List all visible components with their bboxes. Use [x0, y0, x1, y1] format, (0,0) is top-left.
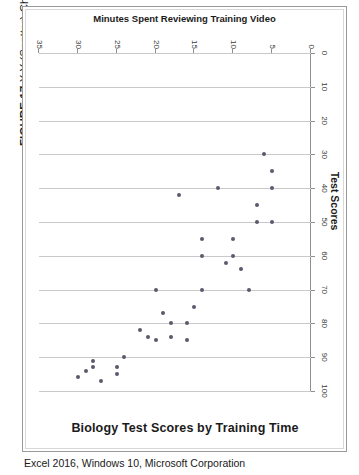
y-tick-label: 20 [151, 31, 160, 49]
y-tick-mark [38, 49, 39, 53]
data-point[interactable] [215, 186, 219, 190]
y-tick-label: 10 [228, 31, 237, 49]
data-point[interactable] [169, 335, 173, 339]
gridline [39, 391, 311, 392]
chart-rotation-wrapper: Test Scores Minutes Spent Reviewing Trai… [27, 11, 343, 447]
x-tick-label: 30 [320, 150, 329, 159]
data-point[interactable] [153, 288, 157, 292]
data-point[interactable] [239, 267, 243, 271]
y-tick-mark [193, 49, 194, 53]
x-tick-mark [311, 154, 315, 155]
x-tick-mark [311, 222, 315, 223]
scatter-chart[interactable]: Test Scores Minutes Spent Reviewing Trai… [27, 11, 343, 447]
x-tick-label: 60 [320, 251, 329, 260]
data-point[interactable] [75, 375, 79, 379]
y-tick-mark [271, 49, 272, 53]
data-point[interactable] [192, 305, 196, 309]
data-point[interactable] [254, 220, 258, 224]
x-tick-label: 20 [320, 116, 329, 125]
x-tick-label: 80 [320, 319, 329, 328]
data-point[interactable] [223, 261, 227, 265]
x-tick-mark [311, 87, 315, 88]
data-point[interactable] [153, 338, 157, 342]
x-tick-mark [311, 357, 315, 358]
y-tick-mark [232, 49, 233, 53]
chart-title-text: Biology Test Scores by Training Time [71, 421, 298, 435]
gridline [39, 87, 311, 88]
plot-area: 010203040506070809010005101520253035 [39, 53, 311, 391]
data-point[interactable] [91, 359, 95, 363]
y-tick-label: 30 [73, 31, 82, 49]
x-tick-label: 0 [320, 51, 329, 55]
data-point[interactable] [200, 237, 204, 241]
data-point[interactable] [262, 152, 266, 156]
data-point[interactable] [138, 328, 142, 332]
y-axis-title: Minutes Spent Reviewing Training Video [27, 9, 343, 27]
gridline [39, 290, 311, 291]
data-point[interactable] [91, 365, 95, 369]
x-tick-mark [311, 188, 315, 189]
chart-title: Biology Test Scores by Training Time [27, 415, 343, 441]
gridline [39, 53, 311, 54]
x-tick-label: 90 [320, 353, 329, 362]
y-tick-mark [154, 49, 155, 53]
x-axis-title: Test Scores [329, 11, 341, 391]
x-tick-label: 40 [320, 184, 329, 193]
source-credit: Excel 2016, Windows 10, Microsoft Corpor… [24, 457, 245, 469]
gridline [39, 256, 311, 257]
y-tick-label: 35 [34, 31, 43, 49]
y-tick-mark [76, 49, 77, 53]
data-point[interactable] [254, 203, 258, 207]
figure-frame: Test Scores Minutes Spent Reviewing Trai… [22, 6, 347, 452]
data-point[interactable] [176, 193, 180, 197]
y-tick-label: 25 [112, 31, 121, 49]
data-point[interactable] [231, 254, 235, 258]
data-point[interactable] [270, 220, 274, 224]
x-tick-label: 10 [320, 82, 329, 91]
y-tick-label: 5 [267, 31, 276, 49]
data-point[interactable] [270, 186, 274, 190]
x-tick-label: 50 [320, 218, 329, 227]
data-point[interactable] [184, 338, 188, 342]
x-tick-mark [311, 256, 315, 257]
x-tick-label: 70 [320, 285, 329, 294]
y-tick-label: 0 [306, 31, 315, 49]
y-axis-title-text: Minutes Spent Reviewing Training Video [93, 13, 275, 24]
data-point[interactable] [114, 365, 118, 369]
x-tick-mark [311, 391, 315, 392]
y-tick-mark [115, 49, 116, 53]
gridline [39, 357, 311, 358]
gridline [39, 121, 311, 122]
x-tick-label: 100 [320, 384, 329, 397]
data-point[interactable] [184, 321, 188, 325]
x-tick-mark [311, 53, 315, 54]
gridline [39, 154, 311, 155]
data-point[interactable] [270, 169, 274, 173]
data-point[interactable] [99, 379, 103, 383]
data-point[interactable] [122, 355, 126, 359]
data-point[interactable] [200, 288, 204, 292]
data-point[interactable] [246, 288, 250, 292]
y-tick-mark [310, 49, 311, 53]
x-tick-mark [311, 323, 315, 324]
x-tick-mark [311, 121, 315, 122]
data-point[interactable] [200, 254, 204, 258]
data-point[interactable] [83, 369, 87, 373]
y-tick-label: 15 [189, 31, 198, 49]
gridline [39, 323, 311, 324]
data-point[interactable] [169, 321, 173, 325]
data-point[interactable] [161, 311, 165, 315]
x-tick-mark [311, 290, 315, 291]
data-point[interactable] [145, 335, 149, 339]
data-point[interactable] [231, 237, 235, 241]
data-point[interactable] [114, 372, 118, 376]
